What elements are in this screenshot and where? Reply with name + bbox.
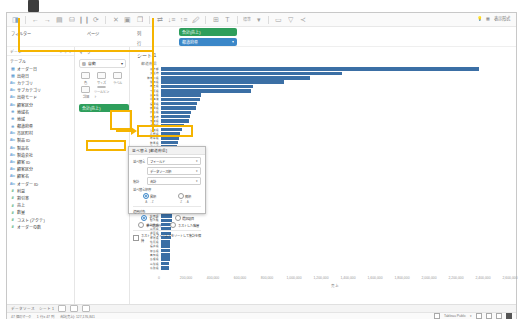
radio-icon[interactable]: [175, 215, 181, 221]
chevron-down-icon[interactable]: ▾: [196, 169, 198, 173]
chevron-down-icon[interactable]: ▾: [228, 39, 234, 44]
radio-cell[interactable]: 降順Z → A: [168, 193, 201, 204]
field-item[interactable]: ⊕地域: [7, 115, 74, 122]
radio-icon[interactable]: [170, 222, 176, 228]
format-icon[interactable]: ▽: [286, 15, 295, 24]
share-icon[interactable]: ≺: [298, 15, 307, 24]
clear-sheet-icon[interactable]: ✕: [111, 15, 120, 24]
radio-cell[interactable]: 選択項目: [168, 215, 201, 221]
x-axis[interactable]: 0200,000400,000600,000800,0001,000,0001,…: [159, 276, 510, 288]
fit-caret-icon[interactable]: ▾: [254, 15, 263, 24]
show-me-icon[interactable]: ▦: [486, 16, 490, 21]
bar[interactable]: [161, 266, 169, 270]
marks-button-detail[interactable]: 詳細: [78, 86, 93, 99]
radio-option[interactable]: 単一選択行: [138, 222, 161, 228]
marks-button-tooltip[interactable]: ツールヒント: [94, 86, 109, 99]
fit-label[interactable]: 標準: [243, 15, 251, 24]
new-data-source-icon[interactable]: ⛁: [67, 15, 76, 24]
radio-icon[interactable]: [138, 222, 144, 228]
radio-icon[interactable]: [141, 215, 147, 221]
filters-shelf[interactable]: フィルター: [11, 28, 81, 37]
lightbulb-icon[interactable]: 💡: [477, 16, 482, 21]
field-item[interactable]: Abc製品名: [7, 144, 74, 151]
sort-by-select[interactable]: フィールド ▾: [147, 157, 201, 165]
chevron-down-icon[interactable]: ▾: [196, 179, 198, 183]
sort-desc-icon[interactable]: ↑≡: [179, 15, 188, 24]
radio-option[interactable]: すべて: [141, 215, 158, 221]
redo-icon[interactable]: →: [43, 15, 52, 24]
field-item[interactable]: #オーダーの数: [7, 223, 74, 230]
radio-cell[interactable]: 単一選択行: [133, 222, 166, 228]
pages-shelf[interactable]: ページ: [87, 28, 127, 37]
radio-option[interactable]: ネストした階層: [170, 222, 199, 228]
layout-icon[interactable]: [506, 313, 512, 319]
refresh-icon[interactable]: ⟳: [91, 15, 100, 24]
tab-sheet1[interactable]: シート 1: [39, 306, 54, 311]
checkbox-icon[interactable]: [133, 235, 139, 241]
radio-option[interactable]: 選択項目: [175, 215, 195, 221]
radio-option[interactable]: 降順: [178, 193, 192, 199]
layout-icon[interactable]: [476, 313, 482, 319]
fix-axes-icon[interactable]: ▭: [274, 15, 283, 24]
pause-icon[interactable]: ❙❙: [79, 15, 88, 24]
radio-icon[interactable]: [178, 193, 184, 199]
field-item[interactable]: Abc製品 ID: [7, 137, 74, 144]
radio-cell[interactable]: 昇順A → Z: [133, 193, 166, 204]
field-item[interactable]: ▦出荷日: [7, 72, 74, 79]
sort-asc-icon[interactable]: ↓≡: [167, 15, 176, 24]
field-item[interactable]: Abcオーダー ID: [7, 180, 74, 187]
marks-button-size[interactable]: サイズ: [94, 72, 109, 85]
field-item[interactable]: #数量: [7, 209, 74, 216]
new-worksheet-icon[interactable]: [58, 305, 66, 312]
field-item[interactable]: ⊕都道府県: [7, 123, 74, 130]
highlight-icon[interactable]: 🖉: [191, 15, 200, 24]
field-item[interactable]: Abc顧客 ID: [7, 158, 74, 165]
undo-icon[interactable]: ←: [31, 15, 40, 24]
show-me-label[interactable]: 表示形式: [494, 15, 510, 21]
new-dashboard-icon[interactable]: [70, 305, 78, 312]
marks-button-label[interactable]: ラベル: [110, 72, 125, 85]
marks-type-dropdown[interactable]: ▨ 自動 ▾: [79, 59, 126, 68]
chevron-down-icon[interactable]: ▾: [470, 314, 472, 318]
field-item[interactable]: #割引率: [7, 194, 74, 201]
radio-cell[interactable]: すべて: [133, 215, 166, 221]
new-story-icon[interactable]: [82, 305, 90, 312]
marks-pill-sum-sales[interactable]: 合計(売上): [79, 104, 129, 112]
field-item[interactable]: ▦オーダー日: [7, 65, 74, 72]
sort-dialog[interactable]: 並べ替え [都道府県] 並べ替え フィールド ▾ データソース順 ▾ 集計 合計: [128, 146, 206, 214]
columns-pill-sum-sales[interactable]: 合計(売上): [179, 28, 237, 36]
field-item[interactable]: Abc出荷モード: [7, 94, 74, 101]
sort-field-select[interactable]: データソース順 ▾: [147, 167, 201, 175]
radio-option[interactable]: 昇順: [143, 193, 157, 199]
aggregation-select[interactable]: 合計 ▾: [147, 177, 201, 185]
group-icon[interactable]: ⊞: [211, 15, 220, 24]
chevron-down-icon[interactable]: ▾: [121, 61, 123, 66]
layout-icon[interactable]: [496, 313, 502, 319]
swap-rows-cols-icon[interactable]: ⇄: [155, 15, 164, 24]
duplicate-icon[interactable]: ❐: [135, 15, 144, 24]
field-item[interactable]: Abc市区町村: [7, 130, 74, 137]
marks-button-color[interactable]: 色: [78, 72, 93, 85]
field-item[interactable]: ⊕地域名: [7, 108, 74, 115]
field-item[interactable]: Abc製造会社: [7, 151, 74, 158]
new-worksheet-icon[interactable]: ▣: [123, 15, 132, 24]
radio-cell[interactable]: ネストした階層: [168, 222, 201, 228]
field-item[interactable]: Abc顧客区分: [7, 166, 74, 173]
field-item[interactable]: #コスト (アクテ): [7, 216, 74, 223]
field-item[interactable]: #利益: [7, 187, 74, 194]
nested-sort-checkbox[interactable]: ネストしたフィールドをソートして集計を保持: [133, 233, 201, 243]
field-item[interactable]: #売上: [7, 202, 74, 209]
layout-icon[interactable]: [486, 313, 492, 319]
bar-row[interactable]: 鳥取県: [139, 266, 508, 270]
save-icon[interactable]: ▤: [55, 15, 64, 24]
rows-pill-prefecture[interactable]: 都道府県 ▾: [179, 38, 237, 46]
field-item[interactable]: Abc顧客区分: [7, 101, 74, 108]
field-item[interactable]: Abcサブカテゴリ: [7, 87, 74, 94]
status-product[interactable]: Tableau Public: [444, 314, 466, 318]
field-item[interactable]: Abcカテゴリ: [7, 79, 74, 86]
chevron-down-icon[interactable]: ▾: [196, 159, 198, 163]
field-item[interactable]: Abc顧客名: [7, 173, 74, 180]
show-labels-icon[interactable]: T: [223, 15, 232, 24]
radio-icon[interactable]: [143, 193, 149, 199]
tab-datasource[interactable]: データソース: [11, 306, 35, 311]
